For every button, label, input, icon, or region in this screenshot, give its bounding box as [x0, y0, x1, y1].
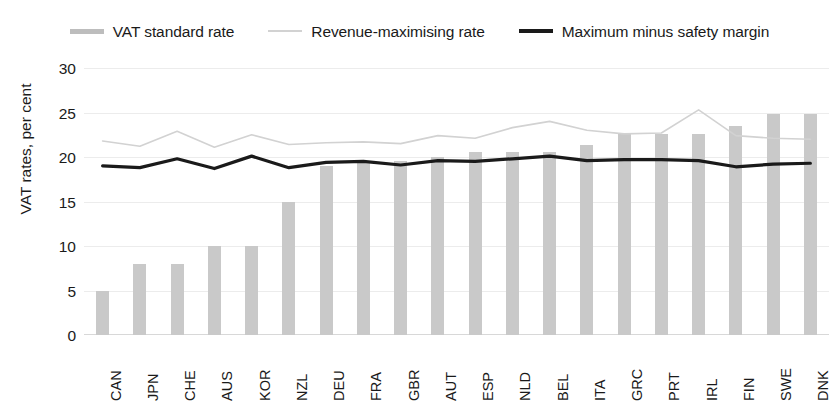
x-axis-tick-label: AUS	[220, 339, 235, 401]
x-axis-tick-label: AUT	[444, 339, 459, 401]
x-axis-ticks: CANJPNCHEAUSKORNZLDEUFRAGBRAUTESPNLDBELI…	[84, 337, 829, 404]
x-axis-tick-label: DNK	[816, 339, 831, 401]
y-axis-title: VAT rates, per cent	[17, 19, 35, 279]
x-axis-tick-label: GBR	[407, 339, 422, 401]
x-axis-tick-label: BEL	[556, 339, 571, 401]
x-axis-tick-label: CAN	[109, 339, 124, 401]
x-axis-tick-label: GRC	[630, 339, 645, 401]
x-axis-tick-label: DEU	[332, 339, 347, 401]
x-axis-tick-label: IRL	[705, 339, 720, 401]
x-axis-tick-label: SWE	[779, 339, 794, 401]
y-axis-tick-label: 30	[44, 61, 76, 76]
x-axis-tick-label: CHE	[183, 339, 198, 401]
legend-item-vat-standard-rate: VAT standard rate	[70, 23, 235, 40]
x-axis-tick-label: ESP	[481, 339, 496, 401]
x-axis-tick-label: KOR	[258, 339, 273, 401]
x-axis-tick-label: JPN	[146, 339, 161, 401]
x-axis-tick-label: NLD	[518, 339, 533, 401]
line-revenue-maximising-rate	[103, 110, 811, 147]
x-axis-tick-label: FIN	[742, 339, 757, 401]
legend-swatch-thick-line-icon	[519, 29, 553, 33]
y-axis-tick-label: 0	[44, 328, 76, 343]
x-axis-tick-label: NZL	[295, 339, 310, 401]
line-series-group	[84, 68, 829, 335]
y-axis-tick-label: 10	[44, 239, 76, 254]
y-axis-tick-label: 25	[44, 106, 76, 121]
x-axis-tick-label: FRA	[369, 339, 384, 401]
x-axis-tick-label: ITA	[593, 339, 608, 401]
y-axis-ticks: 302520151050	[40, 68, 76, 335]
legend-swatch-thin-line-icon	[268, 30, 302, 32]
line-maximum-minus-safety-margin	[103, 156, 811, 168]
legend-item-revenue-maximising-rate: Revenue-maximising rate	[268, 23, 484, 40]
plot-area	[84, 68, 829, 335]
legend-label: VAT standard rate	[113, 23, 235, 40]
y-axis-tick-label: 20	[44, 150, 76, 165]
y-axis-tick-label: 5	[44, 284, 76, 299]
y-axis-tick-label: 15	[44, 195, 76, 210]
legend-label: Maximum minus safety margin	[562, 23, 769, 40]
chart-legend: VAT standard rate Revenue-maximising rat…	[0, 18, 839, 44]
vat-rates-chart: VAT standard rate Revenue-maximising rat…	[0, 0, 839, 404]
legend-item-maximum-minus-safety-margin: Maximum minus safety margin	[519, 23, 769, 40]
legend-label: Revenue-maximising rate	[311, 23, 484, 40]
x-axis-tick-label: PRT	[667, 339, 682, 401]
legend-swatch-bar-icon	[70, 29, 104, 34]
